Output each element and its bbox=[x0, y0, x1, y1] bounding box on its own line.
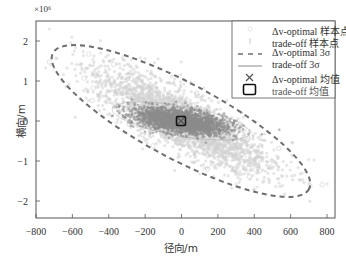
x-tick-label: 600 bbox=[283, 226, 298, 237]
x-tick-label: 800 bbox=[320, 226, 335, 237]
legend-label-dv-optimal-3sigma: Δv-optimal 3σ bbox=[272, 47, 330, 58]
x-tick-label: 0 bbox=[179, 226, 184, 237]
y-tick-label: −2 bbox=[8, 196, 28, 207]
legend-label-trade-off-3sigma: trade-off 3σ bbox=[272, 59, 320, 70]
y-tick-label: −1 bbox=[8, 156, 28, 167]
y-tick-label: 1 bbox=[8, 76, 28, 87]
x-tick-label: 200 bbox=[210, 226, 225, 237]
y-axis-exponent: ×10⁶ bbox=[34, 4, 51, 14]
x-axis-label: 径向/m bbox=[164, 240, 198, 255]
x-tick-label: −600 bbox=[62, 226, 83, 237]
legend-label-trade-off-mean: trade-off 均值 bbox=[272, 83, 329, 98]
y-axis-label: 横向/m bbox=[13, 104, 28, 138]
x-tick-label: −200 bbox=[135, 226, 156, 237]
x-tick-label: −400 bbox=[98, 226, 119, 237]
x-tick-label: 400 bbox=[247, 226, 262, 237]
x-axis-ticks bbox=[36, 214, 327, 218]
x-tick-label: −800 bbox=[26, 226, 47, 237]
y-tick-label: 2 bbox=[8, 36, 28, 47]
y-axis-ticks bbox=[36, 41, 40, 201]
